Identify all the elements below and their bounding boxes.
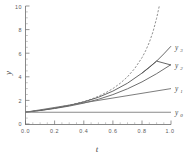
series-y2-curve: [26, 65, 172, 113]
series-label-y0-text: y: [174, 109, 179, 117]
y-tick-label-2: 2: [19, 98, 23, 104]
series-label-y3-text: y: [174, 44, 179, 52]
series-label-y2-subscript: 2: [180, 66, 183, 71]
y-tick-label-4: 4: [19, 74, 23, 80]
series-label-y2: y 2: [174, 62, 183, 71]
series-label-y3: y 3: [174, 44, 183, 53]
x-tick-label-1: 0.2: [50, 128, 59, 134]
x-tick-label-2: 0.4: [79, 128, 88, 134]
x-tick-label-3: 0.6: [108, 128, 117, 134]
y-axis-label: y: [3, 71, 13, 76]
x-tick-label-5: 1.0: [166, 128, 175, 134]
y-tick-label-10: 10: [15, 4, 22, 10]
plot-figure: 0 2 4 6 8 10 0.0 0.2 0.4 0.6 0.8 1.0 y t…: [0, 0, 192, 160]
series-exact-curve: [26, 6, 160, 112]
y-tick-label-8: 8: [19, 27, 23, 33]
series-y3-curve: [26, 46, 172, 112]
plot-canvas: 0 2 4 6 8 10 0.0 0.2 0.4 0.6 0.8 1.0 y t…: [0, 0, 192, 160]
x-tick-label-0: 0.0: [21, 128, 30, 134]
series-label-y0-subscript: 0: [180, 113, 183, 118]
series-y1-curve: [26, 89, 172, 113]
y-tick-label-0: 0: [19, 121, 23, 127]
x-axis-label: t: [96, 144, 99, 154]
series-label-y1-text: y: [174, 85, 179, 93]
y-tick-label-6: 6: [19, 51, 23, 57]
series-label-y2-text: y: [174, 62, 179, 70]
x-tick-label-4: 0.8: [138, 128, 147, 134]
series-label-y0: y 0: [174, 109, 183, 118]
series-label-y3-subscript: 3: [180, 48, 183, 53]
series-label-y1: y 1: [174, 85, 183, 94]
series-label-y1-subscript: 1: [180, 89, 183, 94]
